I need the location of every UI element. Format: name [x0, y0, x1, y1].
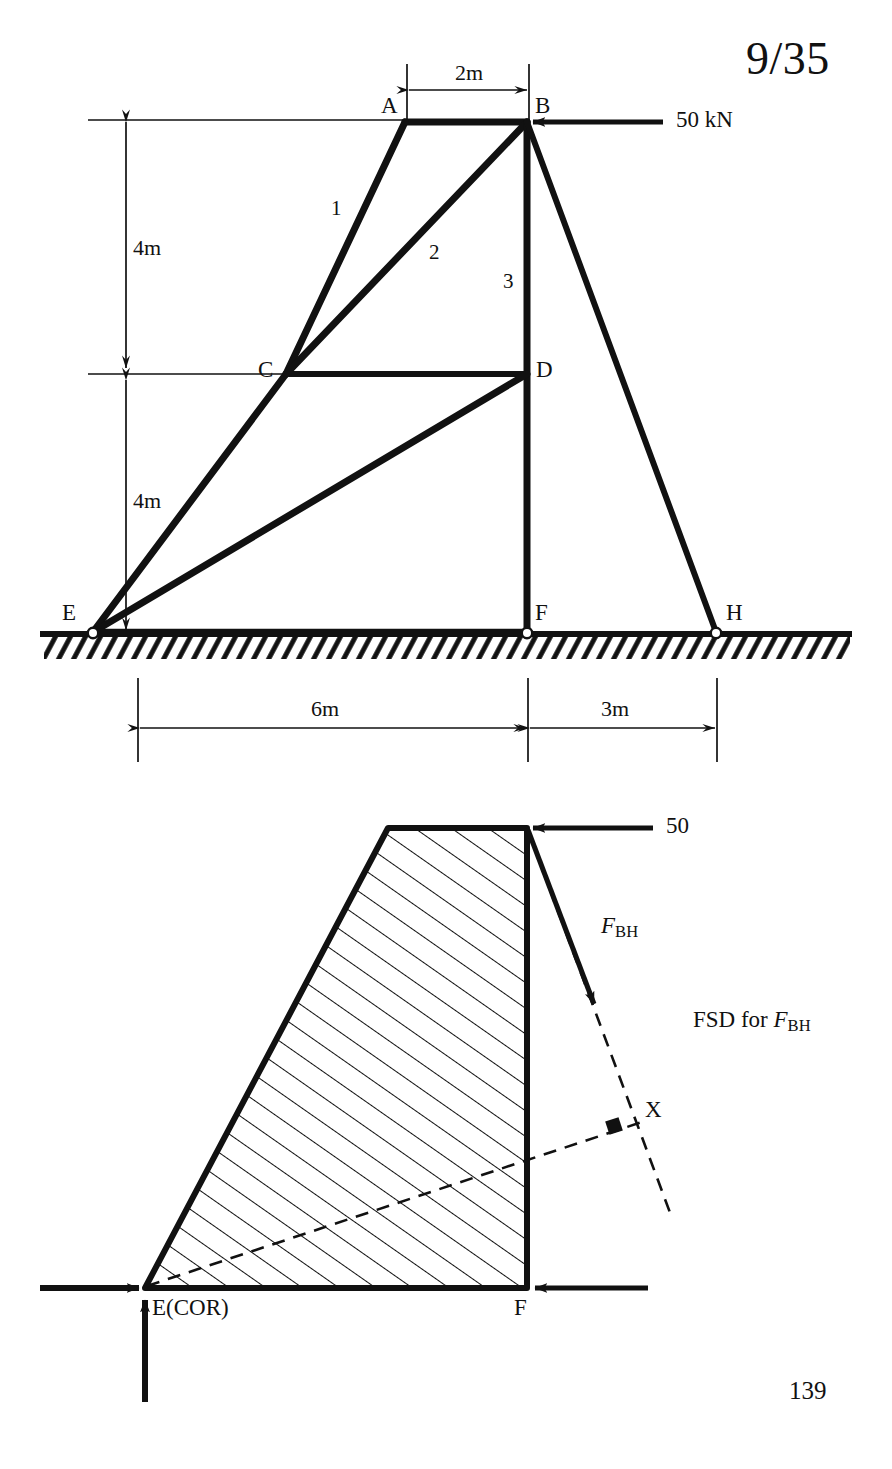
dimension-label-4m-upper: 4m [133, 237, 161, 259]
member-CE [93, 374, 286, 632]
fbd-force-subscript: BH [615, 922, 638, 941]
problem-number: 9/35 [746, 36, 830, 82]
joint-label-A: A [381, 94, 398, 117]
fbd-force-symbol: F [601, 913, 615, 938]
joint-label-C: C [258, 358, 273, 381]
fbd-caption-subscript: BH [788, 1016, 811, 1035]
member-number-2: 2 [429, 242, 440, 263]
member-number-3: 3 [503, 271, 514, 292]
fbd-joint-label-F: F [514, 1296, 527, 1319]
ground-hatch [44, 637, 850, 659]
fbd-hatch-fill [145, 828, 527, 1288]
member-AC-part1 [286, 122, 405, 374]
load-label-50kN: 50 kN [676, 108, 733, 131]
fbd-force-label-FBH: FBH [601, 914, 638, 940]
fbd-caption-prefix: FSD for [693, 1007, 774, 1032]
joint-label-E: E [62, 601, 76, 624]
dimension-label-4m-lower: 4m [133, 490, 161, 512]
truss-figure [40, 64, 852, 762]
pin-F [522, 628, 532, 638]
joint-label-H: H [726, 601, 743, 624]
page-canvas: 9/35 A B C D E F H 1 2 3 2m 4m 4m 6m 3m … [0, 0, 892, 1469]
fbd-caption: FSD for FBH [693, 1008, 811, 1034]
joint-label-F: F [535, 601, 548, 624]
ground-support [40, 634, 852, 659]
bottom-dimension-group [138, 678, 717, 762]
member-number-1: 1 [331, 198, 342, 219]
page-number: 139 [789, 1378, 827, 1403]
dimension-label-2m: 2m [455, 62, 483, 84]
fbd-joint-label-E: E(COR) [152, 1296, 229, 1319]
dimension-label-6m: 6m [311, 698, 339, 720]
fbd-figure [40, 828, 672, 1402]
fbd-force-arrow-FBH [528, 830, 594, 1004]
fbd-point-label-X: X [645, 1098, 662, 1121]
fbd-load-label-50: 50 [666, 814, 689, 837]
pin-E [88, 628, 98, 638]
joint-label-B: B [535, 94, 550, 117]
member-BH [527, 122, 716, 632]
dimension-label-3m: 3m [601, 698, 629, 720]
engineering-figure [0, 0, 892, 1469]
truss-members [93, 122, 716, 632]
member-BC [286, 122, 527, 374]
fbd-caption-symbol: F [774, 1007, 788, 1032]
pin-H [711, 628, 721, 638]
joint-label-D: D [536, 358, 553, 381]
